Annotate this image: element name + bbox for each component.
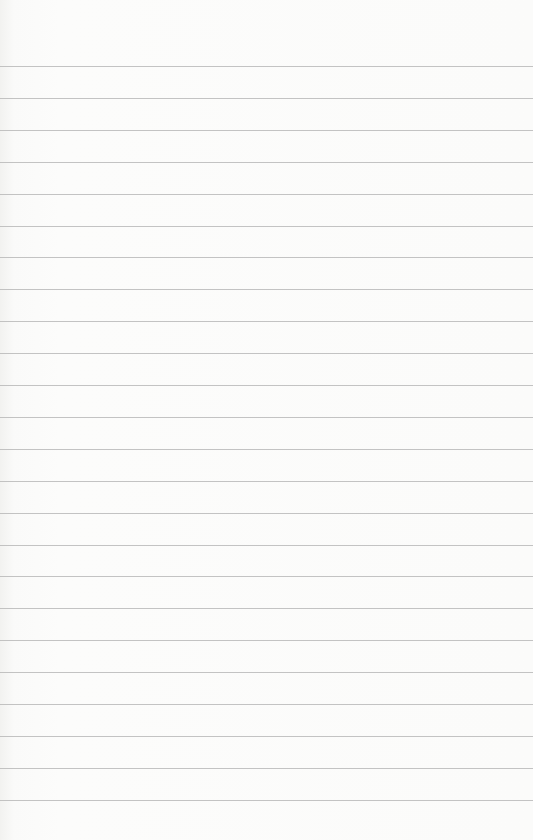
ruled-line [0, 321, 533, 322]
ruled-line [0, 98, 533, 99]
ruled-line [0, 513, 533, 514]
ruled-line [0, 66, 533, 67]
ruled-line [0, 257, 533, 258]
ruled-line [0, 800, 533, 801]
ruled-line [0, 417, 533, 418]
ruled-line [0, 353, 533, 354]
ruled-line [0, 672, 533, 673]
ruled-line [0, 194, 533, 195]
lined-paper-sheet [0, 0, 533, 840]
ruled-line [0, 704, 533, 705]
ruled-line [0, 736, 533, 737]
ruled-line [0, 162, 533, 163]
ruled-line [0, 576, 533, 577]
ruled-line [0, 768, 533, 769]
ruled-line [0, 226, 533, 227]
ruled-line [0, 289, 533, 290]
ruled-line [0, 130, 533, 131]
ruled-line [0, 449, 533, 450]
ruled-line [0, 608, 533, 609]
ruled-line [0, 640, 533, 641]
ruled-line [0, 385, 533, 386]
ruled-line [0, 545, 533, 546]
ruled-line [0, 481, 533, 482]
